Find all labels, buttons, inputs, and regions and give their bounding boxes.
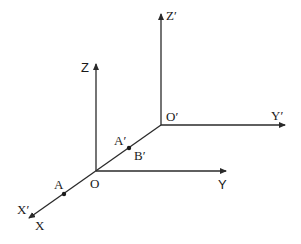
b-prime-point-label: B′: [134, 148, 146, 163]
point-a: [62, 192, 66, 196]
y-prime-axis-label: Y′: [271, 108, 283, 123]
o-prime-origin-label: O′: [166, 109, 178, 124]
diagram-svg: Z Z′ O′ Y′ Y O A′ B′ A X′ X: [0, 0, 301, 244]
z-prime-axis-label: Z′: [166, 8, 177, 23]
y-axis-label: Y: [218, 177, 227, 192]
a-prime-point-label: A′: [114, 133, 126, 148]
a-point-label: A: [54, 177, 64, 192]
o-origin-label: O: [90, 176, 99, 191]
z-axis-label: Z: [81, 60, 89, 75]
point-a-prime-b-prime: [127, 146, 131, 150]
coordinate-frames-diagram: Z Z′ O′ Y′ Y O A′ B′ A X′ X: [0, 0, 301, 244]
x-prime-axis-label: X′: [17, 202, 29, 217]
x-axis-label: X: [35, 218, 45, 233]
